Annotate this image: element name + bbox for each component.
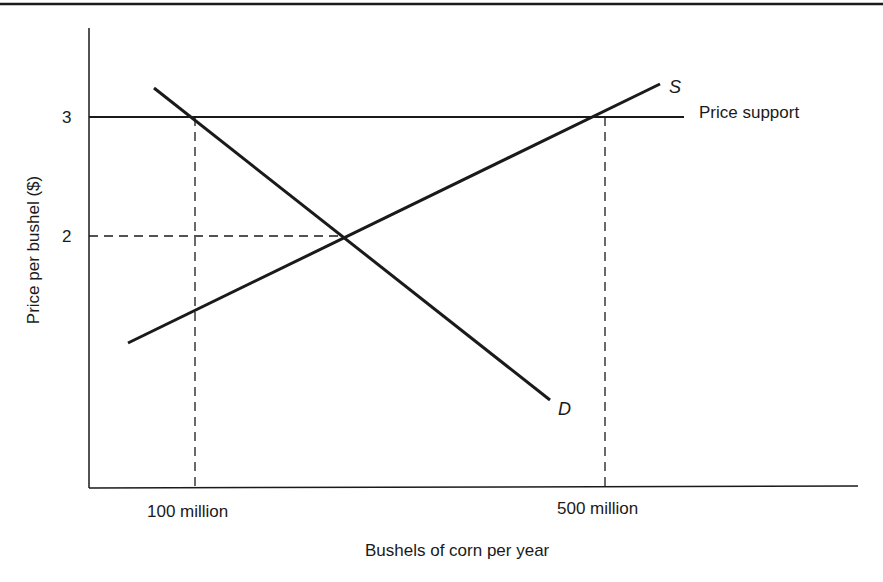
x-tick-100-million: 100 million	[147, 503, 228, 520]
y-axis-title: Price per bushel ($)	[24, 176, 44, 324]
price-support-label: Price support	[699, 104, 799, 121]
x-tick-500-million: 500 million	[557, 500, 638, 517]
supply-demand-chart: 3 2 S Price support D 100 million 500 mi…	[0, 0, 883, 582]
supply-label: S	[669, 78, 681, 96]
demand-curve	[154, 88, 550, 400]
x-axis-title: Bushels of corn per year	[365, 542, 549, 559]
x-axis	[89, 486, 858, 488]
chart-canvas	[0, 0, 883, 582]
demand-label: D	[558, 400, 571, 418]
y-tick-2: 2	[62, 228, 71, 245]
supply-curve	[128, 84, 660, 343]
y-tick-3: 3	[62, 109, 71, 126]
